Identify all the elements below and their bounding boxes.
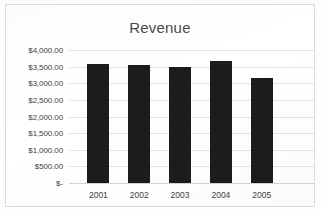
y-axis-tick-label: $3,000.00 (28, 79, 63, 88)
x-axis-tick-label: 2003 (159, 190, 201, 200)
y-axis-tick-label: $4,000.00 (28, 46, 63, 55)
y-axis-tick-label: $2,500.00 (28, 95, 63, 104)
x-axis-tick-label: 2001 (77, 190, 119, 200)
x-axis-tick-label: 2002 (118, 190, 160, 200)
y-axis-tick-label: $- (56, 179, 63, 188)
gridline (69, 50, 314, 51)
chart-screenshot: Revenue $-$500.00$1,000.00$1,500.00$2,00… (0, 0, 321, 213)
x-axis-line (69, 183, 314, 184)
y-axis-tick-label: $3,500.00 (28, 62, 63, 71)
y-axis-tick-label: $2,000.00 (28, 112, 63, 121)
x-axis-tick-label: 2004 (200, 190, 242, 200)
bar[interactable] (251, 78, 273, 183)
y-axis-tick-label: $500.00 (35, 162, 63, 171)
bar[interactable] (210, 61, 232, 183)
bar[interactable] (169, 67, 191, 183)
bar[interactable] (128, 65, 150, 183)
chart-frame: Revenue $-$500.00$1,000.00$1,500.00$2,00… (5, 4, 315, 207)
chart-title: Revenue (6, 19, 314, 36)
y-axis-tick-label: $1,000.00 (28, 145, 63, 154)
bar[interactable] (87, 64, 109, 183)
plot-area: $-$500.00$1,000.00$1,500.00$2,000.00$2,5… (69, 50, 314, 183)
y-axis-tick-label: $1,500.00 (28, 129, 63, 138)
x-axis-tick-label: 2005 (241, 190, 283, 200)
